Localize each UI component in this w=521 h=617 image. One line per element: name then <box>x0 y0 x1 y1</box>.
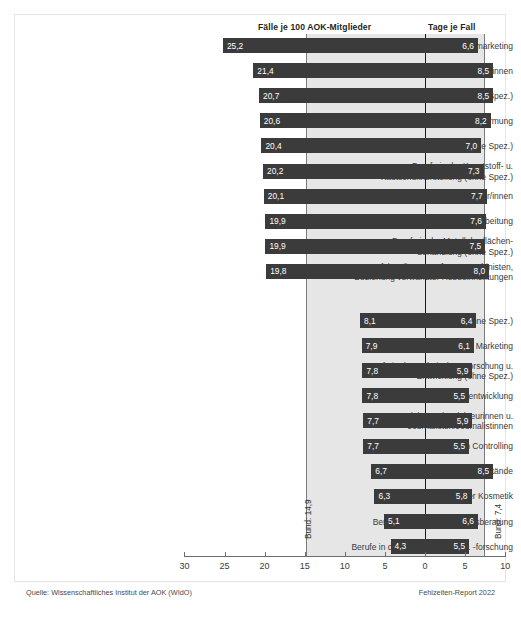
axis-tick-label: 5 <box>463 561 468 571</box>
chart-row: Berufe in der Unternehmensberatung5,16,6 <box>0 514 521 529</box>
bar-tage: 7,7 <box>425 189 487 204</box>
bar-faelle: 7,7 <box>363 439 425 454</box>
bar-value-faelle: 7,8 <box>366 366 378 376</box>
axis-tick <box>385 552 386 557</box>
bar-value-faelle: 7,9 <box>366 341 378 351</box>
bar-value-tage: 5,5 <box>453 541 465 551</box>
bar-value-faelle: 20,7 <box>263 91 279 101</box>
bar-tage: 7,6 <box>425 214 486 229</box>
axis-tick <box>305 552 306 557</box>
bar-value-tage: 5,8 <box>456 491 468 501</box>
bar-tage: 8,5 <box>425 88 493 103</box>
axis-tick <box>465 552 466 557</box>
axis-tick <box>265 552 266 557</box>
bar-value-tage: 6,1 <box>458 341 470 351</box>
chart-row: Maschinen- u. Anlagenführer/innen20,17,7 <box>0 189 521 204</box>
chart-row: Kranführer/innen, Aufzugsmaschinisten,Be… <box>0 264 521 279</box>
chart-figure: Fälle je 100 AOK-Mitglieder Tage je Fall… <box>0 0 521 617</box>
bar-tage: 7,3 <box>425 164 484 179</box>
bar-faelle: 21,4 <box>253 63 425 78</box>
bar-tage: 8,5 <box>425 464 493 479</box>
bar-value-tage: 5,5 <box>453 441 465 451</box>
bar-faelle: 5,1 <box>384 514 425 529</box>
bar-faelle: 4,3 <box>391 539 425 554</box>
bar-value-faelle: 20,4 <box>265 141 281 151</box>
chart-row: Redakteure/Redakteurinnen u.Journalisten… <box>0 413 521 428</box>
bar-value-faelle: 20,6 <box>264 116 280 126</box>
bar-value-tage: 8,5 <box>478 91 490 101</box>
chart-row: Berufe in der Metallbearbeitung (ohne Sp… <box>0 138 521 153</box>
axis-tick-label: 10 <box>340 561 350 571</box>
bar-tage: 6,6 <box>425 514 478 529</box>
bar-value-faelle: 19,9 <box>269 216 285 226</box>
bar-value-tage: 7,0 <box>465 141 477 151</box>
bar-faelle: 7,8 <box>362 363 425 378</box>
column-header-faelle: Fälle je 100 AOK-Mitglieder <box>258 22 371 32</box>
bar-tage: 5,9 <box>425 363 472 378</box>
axis-tick <box>505 552 506 557</box>
bar-tage: 6,1 <box>425 338 474 353</box>
bar-value-tage: 6,6 <box>462 41 474 51</box>
chart-row: Berufe in der Metalloberflächen-behandlu… <box>0 239 521 254</box>
bar-tage: 8,0 <box>425 264 489 279</box>
axis-tick-label: 0 <box>422 561 427 571</box>
bar-faelle: 6,7 <box>371 464 425 479</box>
bar-value-tage: 6,6 <box>462 516 474 526</box>
x-axis: 302520151050510 <box>0 556 521 580</box>
bar-value-tage: 8,5 <box>478 466 490 476</box>
bar-value-tage: 7,6 <box>470 216 482 226</box>
bar-faelle: 7,8 <box>362 388 425 403</box>
bar-faelle: 19,9 <box>265 214 425 229</box>
bar-tage: 6,4 <box>425 313 476 328</box>
chart-row: Geschäftsführer/innen u. Vorstände6,78,5 <box>0 464 521 479</box>
chart-row: Berufe in der Kunststoff- u.Kautschukher… <box>0 164 521 179</box>
bar-value-tage: 5,9 <box>457 366 469 376</box>
bar-value-tage: 5,5 <box>453 391 465 401</box>
axis-tick <box>425 552 426 557</box>
bar-value-faelle: 6,7 <box>375 466 387 476</box>
source-note: Quelle: Wissenschaftliches Institut der … <box>26 588 192 597</box>
chart-row: Ärzte/Ärztinnen (ohne Spez.)8,16,4 <box>0 313 521 328</box>
bar-tage: 7,0 <box>425 138 481 153</box>
bar-tage: 5,5 <box>425 539 469 554</box>
bar-faelle: 20,7 <box>259 88 425 103</box>
bar-tage: 5,9 <box>425 413 472 428</box>
bar-tage: 5,8 <box>425 489 472 504</box>
bar-value-faelle: 6,3 <box>378 491 390 501</box>
bar-faelle: 7,9 <box>362 338 425 353</box>
bar-tage: 8,2 <box>425 113 491 128</box>
bar-faelle: 20,2 <box>263 164 425 179</box>
axis-tick-label: 10 <box>500 561 510 571</box>
bar-tage: 5,5 <box>425 388 469 403</box>
bar-value-faelle: 5,1 <box>388 516 400 526</box>
chart-row: Berufe in der technischen Forschung u.En… <box>0 363 521 378</box>
bar-value-tage: 8,5 <box>478 66 490 76</box>
bar-value-faelle: 19,9 <box>269 241 285 251</box>
bar-tage: 6,6 <box>425 38 478 53</box>
bar-value-faelle: 7,8 <box>366 391 378 401</box>
bar-faelle: 20,4 <box>261 138 425 153</box>
chart-row: Berufe in Werbung u. Marketing7,96,1 <box>0 338 521 353</box>
bar-value-faelle: 25,2 <box>227 41 243 51</box>
chart-row: Berufe in der Metallumformung20,68,2 <box>0 113 521 128</box>
bar-value-faelle: 21,4 <box>257 66 273 76</box>
bar-tage: 7,5 <box>425 239 485 254</box>
axis-tick <box>184 552 185 557</box>
bar-faelle: 25,2 <box>223 38 425 53</box>
axis-tick-label: 25 <box>219 561 229 571</box>
bar-faelle: 7,7 <box>363 413 425 428</box>
chart-row: Berufe in der Hochschullehre u. -forschu… <box>0 539 521 554</box>
bar-value-faelle: 8,1 <box>364 316 376 326</box>
axis-tick <box>225 552 226 557</box>
chart-row: Straßen- u. Tunnelwärter/innen21,48,5 <box>0 63 521 78</box>
bar-value-tage: 8,2 <box>475 116 487 126</box>
bar-faelle: 6,3 <box>374 489 425 504</box>
bar-faelle: 19,9 <box>265 239 425 254</box>
bar-value-faelle: 7,7 <box>367 416 379 426</box>
bar-value-faelle: 20,1 <box>268 191 284 201</box>
chart-row: Berufe in der Ver- u. Entsorgung (ohne S… <box>0 88 521 103</box>
bar-value-faelle: 4,3 <box>395 541 407 551</box>
report-note: Fehlzeiten-Report 2022 <box>419 588 495 597</box>
chart-row: Berufe in der schleifenden Metallbearbei… <box>0 214 521 229</box>
bar-tage: 8,5 <box>425 63 493 78</box>
